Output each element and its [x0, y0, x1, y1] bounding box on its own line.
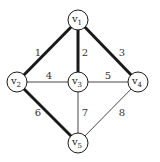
node-v4: v4: [128, 72, 148, 92]
edge-label: 5: [105, 70, 111, 81]
edge-label: 2: [82, 47, 88, 58]
edge-v2-v5: [17, 82, 78, 143]
node-v3: v3: [68, 72, 88, 92]
edge-label: 8: [119, 107, 125, 118]
edge-label: 4: [46, 70, 52, 81]
edge-label: 7: [82, 107, 88, 118]
node-v2: v2: [7, 72, 27, 92]
graph-diagram: 12345678 v1v2v3v4v5: [0, 0, 160, 162]
edge-label: 6: [35, 107, 41, 118]
node-v5: v5: [68, 133, 88, 153]
edge-label: 3: [119, 47, 125, 58]
edge-label: 1: [35, 47, 41, 58]
node-v1: v1: [68, 10, 88, 30]
